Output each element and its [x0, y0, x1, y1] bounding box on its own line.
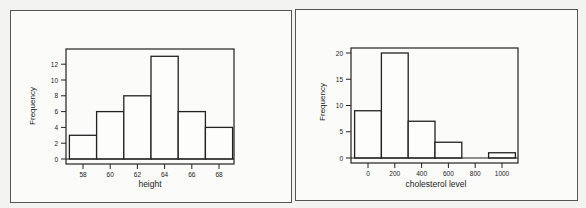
histogram-bar — [178, 112, 205, 159]
histogram-bar — [205, 127, 232, 159]
x-tick-label: 66 — [188, 171, 196, 178]
x-tick-label: 400 — [416, 170, 427, 177]
histogram-bar — [97, 112, 124, 159]
histogram-bar — [151, 56, 178, 159]
x-tick-label: 1000 — [495, 170, 510, 177]
y-axis-label: Frequency — [28, 87, 37, 125]
x-tick-label: 600 — [443, 170, 454, 177]
histogram-bar — [69, 135, 96, 159]
histogram-bar — [355, 111, 382, 158]
x-tick-label: 800 — [470, 170, 481, 177]
x-tick-label: 58 — [79, 171, 87, 178]
y-tick-label: 12 — [51, 61, 59, 68]
y-axis-label: Frequency — [318, 83, 327, 121]
x-tick-label: 64 — [161, 171, 169, 178]
histogram-bar — [381, 53, 408, 158]
y-tick-label: 4 — [54, 124, 58, 131]
y-tick-label: 8 — [54, 92, 58, 99]
y-tick-label: 15 — [336, 76, 344, 83]
x-tick-label: 62 — [134, 171, 142, 178]
x-tick-label: 68 — [215, 171, 223, 178]
cholesterol-histogram: 05101520 02004006008001000 Frequency cho… — [318, 48, 518, 189]
x-axis-ticks: 02004006008001000 — [366, 163, 509, 177]
y-tick-label: 10 — [51, 77, 59, 84]
charts-canvas: 024681012 586062646668 Frequency height … — [0, 0, 586, 208]
histogram-bars — [69, 56, 232, 159]
y-axis-ticks: 05101520 — [336, 50, 351, 162]
x-axis-ticks: 586062646668 — [79, 164, 223, 178]
y-axis-ticks: 024681012 — [51, 61, 66, 163]
y-tick-label: 5 — [339, 128, 343, 135]
x-axis-label: height — [138, 179, 162, 189]
x-axis-label: cholesterol level — [406, 179, 467, 189]
histogram-bar — [408, 121, 435, 158]
y-tick-label: 10 — [336, 102, 344, 109]
y-tick-label: 20 — [336, 50, 344, 57]
histogram-bar — [489, 153, 516, 158]
height-histogram: 024681012 586062646668 Frequency height — [28, 49, 234, 189]
histogram-bars — [355, 53, 516, 158]
x-tick-label: 0 — [366, 170, 370, 177]
histogram-bar — [124, 96, 151, 159]
histogram-bar — [435, 142, 462, 158]
y-tick-label: 6 — [54, 108, 58, 115]
y-tick-label: 0 — [54, 156, 58, 163]
x-tick-label: 200 — [389, 170, 400, 177]
y-tick-label: 0 — [339, 155, 343, 162]
x-tick-label: 60 — [107, 171, 115, 178]
y-tick-label: 2 — [54, 140, 58, 147]
